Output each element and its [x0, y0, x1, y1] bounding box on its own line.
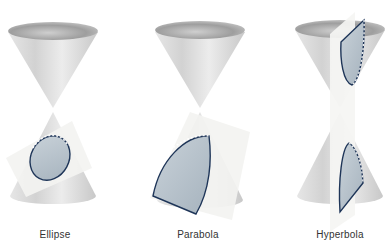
upper-nappe [8, 22, 98, 108]
parabola-panel [150, 21, 250, 220]
ellipse-label: Ellipse [5, 229, 105, 240]
hyperbola-label: Hyperbola [290, 229, 390, 240]
conic-sections-diagram [0, 0, 391, 250]
parabola-label: Parabola [148, 229, 248, 240]
hyperbola-panel [295, 12, 385, 232]
upper-nappe [155, 21, 245, 108]
ellipse-panel [6, 22, 98, 204]
